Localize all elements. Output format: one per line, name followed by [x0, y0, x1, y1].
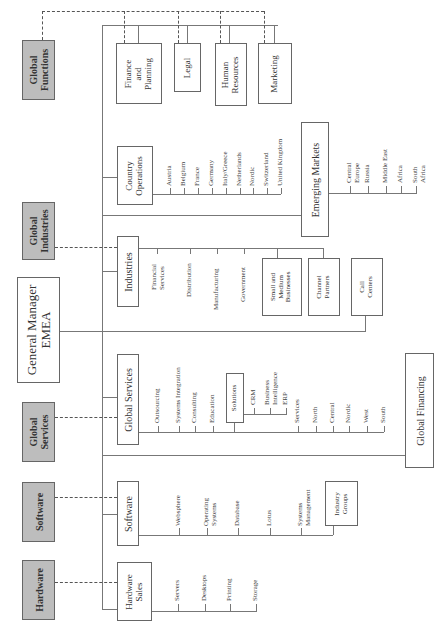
- spine-lower: [102, 210, 103, 610]
- hw-tick: [205, 604, 206, 611]
- solutions-label: Solutions: [231, 385, 239, 411]
- marketing-box: Marketing: [258, 43, 292, 104]
- gs-bar: [139, 432, 346, 433]
- region-item: West: [362, 409, 370, 423]
- global-financing-box: Global Financing: [405, 353, 434, 468]
- co-tick: [240, 188, 241, 194]
- gs-tick: [298, 426, 299, 432]
- dash-mkt: [264, 11, 265, 43]
- service-item: Outsourcing: [153, 388, 161, 423]
- dash-industries: [55, 247, 117, 248]
- country-item: Austria: [165, 165, 173, 186]
- sw-tick: [270, 528, 271, 535]
- legal-box: Legal: [174, 43, 201, 92]
- hardware-sales-label: Hardware Sales: [125, 574, 145, 609]
- global-industries-label: Global Industries: [28, 209, 50, 252]
- software-unit-label: Software: [33, 493, 44, 531]
- country-item: Netherlands: [235, 152, 243, 186]
- solution-item: Business Intelligence: [263, 372, 279, 405]
- country-operations-box: Country Operations: [117, 146, 153, 205]
- sw-bar: [139, 535, 333, 536]
- co-bar: [153, 194, 281, 195]
- ind-tick: [190, 248, 191, 254]
- co-tick: [212, 188, 213, 194]
- global-services-box: Global Services: [22, 402, 55, 462]
- reg-tick: [316, 426, 317, 432]
- sol-tick: [254, 408, 255, 414]
- dash-fin: [124, 11, 125, 43]
- country-item: Belgium: [179, 162, 187, 186]
- general-manager-label: General Manager EMEA: [24, 285, 53, 376]
- software-item: Database: [233, 500, 241, 526]
- solution-item: CRM: [249, 389, 257, 405]
- em-tick: [386, 186, 387, 193]
- service-item: Systems Integration: [174, 367, 182, 423]
- dash-legal: [178, 11, 179, 43]
- dash-services: [55, 417, 117, 418]
- hw-tick: [256, 604, 257, 611]
- co-tick: [253, 188, 254, 194]
- industry-item: Distribution: [185, 263, 193, 297]
- dash-hr: [220, 11, 221, 43]
- small-medium-businesses-box: Small and Medium Businesses: [262, 258, 302, 316]
- co-tick: [267, 188, 268, 194]
- emerging-market-item: Russia: [363, 164, 371, 183]
- sw-tick: [333, 526, 334, 535]
- em-tick: [350, 186, 351, 193]
- industries-label: Industries: [123, 252, 134, 291]
- ind-tick: [244, 248, 245, 254]
- channel-partners-label: Channel Partners: [316, 275, 331, 298]
- global-services-box: Global Services: [117, 354, 139, 445]
- industry-groups-box: Industry Groups: [325, 481, 358, 526]
- fn-stub-1: [138, 25, 139, 43]
- industry-item: Financial Services: [150, 264, 166, 290]
- software-item: Websphere: [174, 495, 182, 526]
- gs-tick: [158, 426, 159, 432]
- gs-bar-extend: [346, 432, 384, 433]
- reg-tick: [333, 426, 334, 432]
- hardware-item: Printing: [225, 578, 233, 601]
- solution-item: ERP: [281, 392, 289, 405]
- marketing-label: Marketing: [270, 55, 280, 93]
- global-industries-box: Global Industries: [22, 202, 55, 260]
- country-operations-label: Country Operations: [125, 156, 145, 196]
- software-label: Software: [123, 495, 134, 531]
- sol-tick: [286, 408, 287, 414]
- hw-bar: [152, 611, 257, 612]
- emerging-market-item: South Africa: [411, 165, 427, 183]
- call-centers-label: Call Centers: [359, 276, 374, 297]
- hardware-sales-box: Hardware Sales: [117, 562, 152, 621]
- country-item: United Kingdom: [276, 139, 284, 186]
- gs-tick: [234, 423, 235, 432]
- fn-stub-3: [229, 25, 230, 43]
- gs-stub: [102, 397, 117, 398]
- solutions-bar: [244, 414, 287, 415]
- gs-tick: [213, 426, 214, 432]
- dash-software: [55, 497, 117, 498]
- software-box: Software: [117, 481, 139, 546]
- functions-bar: [102, 25, 278, 26]
- region-item: Central: [328, 402, 336, 423]
- channel-partners-box: Channel Partners: [308, 258, 340, 316]
- industry-groups-label: Industry Groups: [334, 492, 349, 515]
- call-centers-box: Call Centers: [351, 258, 383, 316]
- em-tick: [368, 186, 369, 193]
- industries-box: Industries: [117, 236, 139, 307]
- hw-tick: [178, 604, 179, 611]
- ind-bar: [139, 248, 323, 249]
- global-functions-label: Global Functions: [28, 49, 50, 91]
- co-tick: [281, 188, 282, 194]
- global-functions-box: Global Functions: [22, 40, 55, 100]
- emerging-markets-label: Emerging Markets: [310, 142, 321, 217]
- service-item: Education: [208, 395, 216, 423]
- country-item: Italy/Greece: [221, 151, 229, 186]
- sw-tick: [238, 528, 239, 535]
- software-item: Lotus: [265, 510, 273, 526]
- software-item: Operating Systems: [202, 498, 218, 526]
- region-item: Nordic: [344, 404, 352, 423]
- human-resources-box: Human Resources: [215, 43, 247, 106]
- ind-tick: [323, 248, 324, 258]
- fn-stub-4: [274, 25, 275, 43]
- ind-tick: [277, 248, 278, 258]
- general-manager-box: General Manager EMEA: [17, 277, 60, 383]
